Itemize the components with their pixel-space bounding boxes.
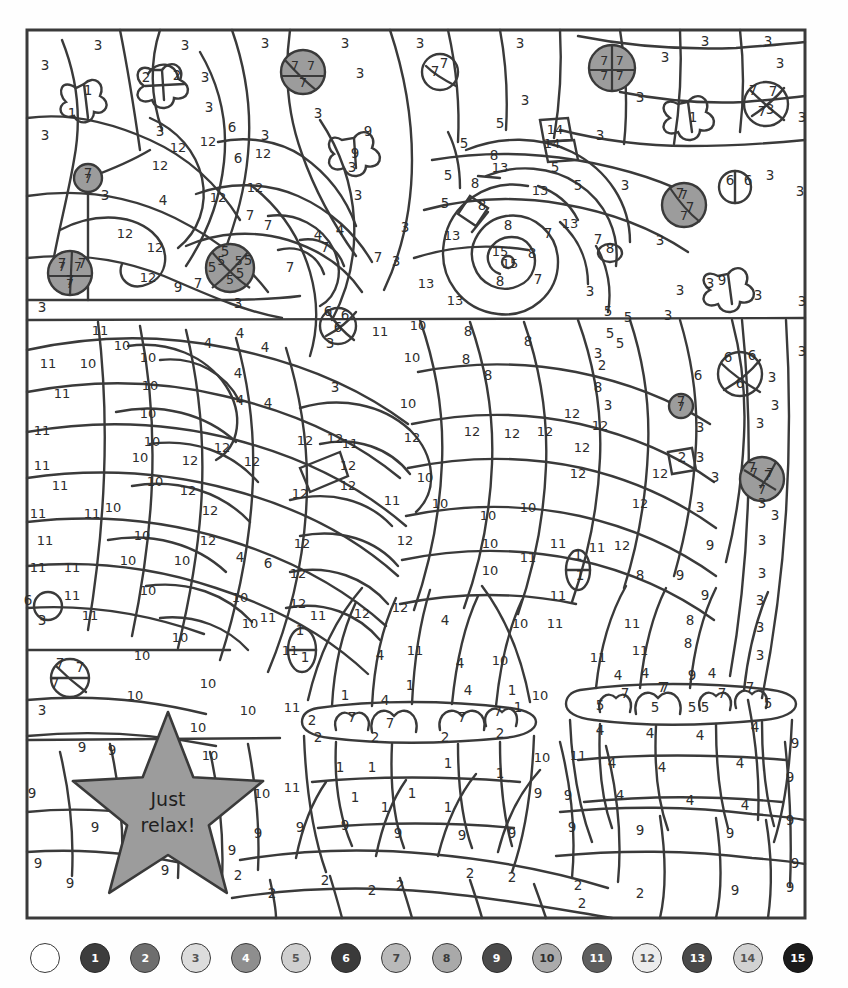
legend-chip-label: 12: [640, 952, 655, 965]
legend-chip-7[interactable]: 7: [381, 943, 411, 973]
region-number: 12: [294, 536, 311, 551]
region-number: 3: [38, 612, 47, 628]
region-number: 11: [82, 608, 99, 623]
legend-chip-8[interactable]: 8: [432, 943, 462, 973]
region-number: 10: [417, 470, 434, 485]
legend-chip-5[interactable]: 5: [281, 943, 311, 973]
legend-chip-3[interactable]: 3: [181, 943, 211, 973]
legend-chip-6[interactable]: 6: [331, 943, 361, 973]
region-number: 4: [708, 665, 717, 681]
legend-row: 123456789101112131415: [0, 928, 848, 988]
region-number: 5: [221, 243, 230, 259]
region-number: 3: [416, 35, 425, 51]
region-number: 11: [92, 323, 109, 338]
region-number: 1: [444, 799, 453, 815]
region-number: 1: [576, 567, 585, 583]
region-number: 11: [284, 700, 301, 715]
region-number: 9: [228, 842, 237, 858]
region-number: 6: [334, 319, 343, 335]
region-number: 1: [574, 547, 583, 563]
region-number: 11: [54, 386, 71, 401]
region-number: 3: [205, 99, 214, 115]
region-number: 2: [508, 869, 517, 885]
region-number: 1: [508, 682, 517, 698]
region-number: 3: [234, 295, 243, 311]
legend-bar: 123456789101112131415: [0, 928, 848, 988]
legend-chip-15[interactable]: 15: [783, 943, 813, 973]
region-number: 2: [396, 877, 405, 893]
region-number: 11: [590, 650, 607, 665]
legend-chip-14[interactable]: 14: [733, 943, 763, 973]
region-number: 9: [28, 785, 37, 801]
region-number: 10: [512, 616, 529, 631]
region-number: 8: [686, 612, 695, 628]
region-number: 11: [624, 616, 641, 631]
region-number: 7: [749, 82, 758, 98]
region-number: 3: [401, 219, 410, 235]
star-line-1: Just: [150, 788, 186, 810]
region-number: 9: [91, 819, 100, 835]
region-number: 3: [621, 177, 630, 193]
legend-chip-blank[interactable]: [30, 943, 60, 973]
region-number: 1: [408, 785, 417, 801]
region-number: 5: [624, 309, 633, 325]
puzzle-canvas[interactable]: 77777777777775557777 3333333332233773311…: [0, 0, 848, 930]
region-number: 6: [264, 555, 273, 571]
region-number: 12: [210, 190, 227, 205]
region-number: 4: [614, 667, 623, 683]
region-number: 10: [410, 318, 427, 333]
legend-chip-13[interactable]: 13: [682, 943, 712, 973]
region-number: 11: [282, 643, 299, 658]
region-number: 9: [564, 787, 573, 803]
region-number: 9: [726, 825, 735, 841]
region-number: 3: [156, 123, 165, 139]
region-number: 1: [301, 649, 310, 665]
region-number: 7: [66, 272, 75, 288]
region-number: 12: [290, 566, 307, 581]
region-number: 2: [234, 867, 243, 883]
legend-chip-10[interactable]: 10: [532, 943, 562, 973]
legend-chip-9[interactable]: 9: [482, 943, 512, 973]
region-number: 11: [520, 550, 537, 565]
region-number: 10: [404, 350, 421, 365]
region-number: 12: [504, 426, 521, 441]
region-number: 4: [336, 222, 345, 238]
region-number: 12: [170, 140, 187, 155]
legend-chip-label: 9: [493, 952, 501, 965]
region-number: 1: [368, 759, 377, 775]
puzzle-artwork[interactable]: 77777777777775557777 3333333332233773311…: [0, 0, 848, 930]
region-number: 3: [516, 35, 525, 51]
region-number: 3: [758, 565, 767, 581]
gray-circle-number: 7: [299, 75, 307, 90]
region-number: 7: [544, 225, 553, 241]
legend-chip-4[interactable]: 4: [231, 943, 261, 973]
region-number: 12: [652, 466, 669, 481]
legend-chip-label: 4: [242, 952, 250, 965]
region-number: 9: [791, 855, 800, 871]
region-number: 7: [374, 249, 383, 265]
legend-chip-1[interactable]: 1: [80, 943, 110, 973]
region-number: 7: [661, 679, 670, 695]
region-number: 7: [321, 239, 330, 255]
region-number: 12: [564, 406, 581, 421]
legend-chip-2[interactable]: 2: [130, 943, 160, 973]
region-number: 15: [502, 256, 519, 271]
region-number: 7: [494, 703, 503, 719]
region-number: 10: [114, 338, 131, 353]
region-number: 12: [404, 430, 421, 445]
region-number: 6: [324, 303, 333, 319]
region-number: 10: [200, 676, 217, 691]
region-number: 10: [147, 474, 164, 489]
region-number: 6: [736, 375, 745, 391]
region-number: 7: [264, 217, 273, 233]
region-number: 12: [632, 496, 649, 511]
region-number: 4: [159, 192, 168, 208]
legend-chip-12[interactable]: 12: [632, 943, 662, 973]
region-number: 7: [686, 199, 695, 215]
region-number: 3: [696, 449, 705, 465]
region-number: 9: [718, 272, 727, 288]
region-number: 7: [746, 679, 755, 695]
region-number: 7: [758, 103, 767, 119]
region-number: 9: [174, 279, 183, 295]
legend-chip-11[interactable]: 11: [582, 943, 612, 973]
